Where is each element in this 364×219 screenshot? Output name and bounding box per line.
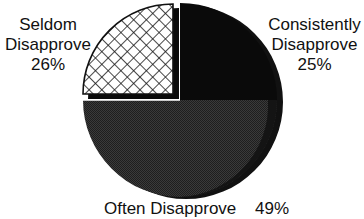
label-often-text: Often Disapprove [104, 199, 236, 218]
label-often-disapprove: Often Disapprove 49% [104, 199, 364, 219]
label-consistent-pct: 25% [268, 55, 361, 75]
label-consistent-line2: Disapprove [268, 35, 361, 55]
label-seldom-disapprove: Seldom Disapprove 26% [0, 15, 96, 75]
slice-often-disapprove [83, 100, 277, 197]
label-often-pct: 49% [255, 199, 289, 218]
label-seldom-line2: Disapprove [0, 35, 96, 55]
slice-seldom-disapprove [83, 4, 173, 94]
label-consistent-line1: Consistently [268, 15, 361, 35]
label-seldom-line1: Seldom [0, 15, 96, 35]
slice-consistently-disapprove [180, 3, 277, 100]
label-seldom-pct: 26% [0, 55, 96, 75]
label-consistently-disapprove: Consistently Disapprove 25% [268, 15, 361, 75]
